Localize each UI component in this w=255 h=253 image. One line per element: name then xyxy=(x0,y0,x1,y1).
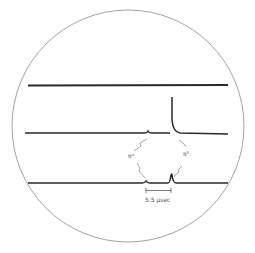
pointer-right-lower xyxy=(174,166,182,176)
scale-bar xyxy=(146,188,171,193)
scope-circle xyxy=(12,10,244,242)
pointer-left-lower xyxy=(137,163,145,178)
scale-bar-label: 5.5 μsec xyxy=(145,196,170,204)
label-pi-plus: π⁺ xyxy=(128,152,135,159)
middle-trace xyxy=(25,97,228,134)
bottom-trace xyxy=(28,174,228,183)
top-trace xyxy=(28,85,228,86)
label-pi-zero: π° xyxy=(183,150,190,157)
oscilloscope-figure: π⁺ π° 5.5 μsec xyxy=(0,0,255,253)
pointer-right-upper xyxy=(179,140,186,147)
pointer-left-upper xyxy=(134,139,147,151)
